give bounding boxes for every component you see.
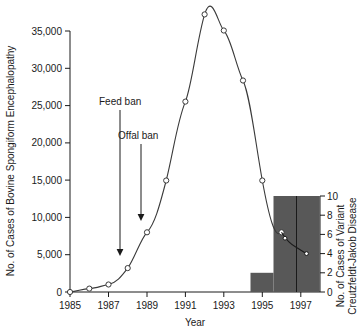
left-y-ticks — [65, 31, 70, 292]
bse-point-1987 — [106, 282, 111, 287]
bse-point-1994 — [240, 78, 245, 83]
bse-point-1996 — [279, 230, 284, 235]
x-tick-label-1997: 1997 — [290, 300, 313, 311]
left-y-tick-label-0: 0 — [56, 287, 62, 298]
left-y-tick-label-10000: 10,000 — [31, 212, 62, 223]
right-y-tick-label-4: 4 — [327, 248, 333, 259]
annotation-feed-ban-arrowhead — [117, 249, 124, 256]
vcjd-bars — [251, 196, 320, 292]
annotation-offal-ban: Offal ban — [118, 130, 158, 221]
x-tick-label-1993: 1993 — [213, 300, 236, 311]
x-tick-label-1995: 1995 — [251, 300, 274, 311]
x-tick-label-1985: 1985 — [59, 300, 82, 311]
right-y-tick-label-0: 0 — [327, 287, 333, 298]
bse-point-1995 — [260, 178, 265, 183]
x-axis-label: Year — [185, 317, 206, 328]
bse-point-1989 — [144, 230, 149, 235]
vcjd-point-1996 — [283, 236, 287, 240]
x-ticks — [70, 292, 301, 297]
left-y-tick-label-15000: 15,000 — [31, 175, 62, 186]
x-tick-labels: 1985 1987 1989 1991 1993 1995 1997 — [59, 300, 312, 311]
right-y-tick-label-10: 10 — [327, 191, 339, 202]
bse-point-1988 — [125, 266, 130, 271]
left-y-tick-labels: 0 5,000 10,000 15,000 20,000 25,000 30,0… — [31, 26, 62, 298]
left-y-tick-label-25000: 25,000 — [31, 100, 62, 111]
right-y-tick-label-8: 8 — [327, 210, 333, 221]
x-tick-label-1989: 1989 — [136, 300, 159, 311]
bse-vcjd-chart: 0 5,000 10,000 15,000 20,000 25,000 30,0… — [0, 0, 362, 333]
bse-point-1991 — [183, 99, 188, 104]
bse-point-1992 — [202, 12, 207, 17]
annotation-feed-ban: Feed ban — [99, 96, 141, 256]
bse-point-1986 — [87, 286, 92, 291]
bse-point-1985 — [67, 289, 72, 294]
left-y-axis-label: No. of Cases of Bovine Spongiform Enceph… — [5, 46, 16, 277]
right-y-ticks — [320, 196, 325, 292]
right-y-axis-label-line1: No. of Cases of Variant — [335, 204, 346, 307]
bse-curve — [70, 6, 282, 292]
vcjd-point-1997 — [305, 252, 309, 256]
left-y-tick-label-5000: 5,000 — [37, 249, 62, 260]
x-tick-label-1991: 1991 — [174, 300, 197, 311]
annotation-offal-ban-arrowhead — [138, 214, 145, 221]
bse-point-1990 — [164, 178, 169, 183]
x-tick-label-1987: 1987 — [97, 300, 120, 311]
annotation-offal-ban-label: Offal ban — [118, 130, 158, 141]
bse-data-points — [67, 12, 284, 295]
right-y-tick-label-6: 6 — [327, 229, 333, 240]
left-y-tick-label-35000: 35,000 — [31, 26, 62, 37]
right-y-axis-label-line2: Creutzfeldt-Jakob Disease — [347, 197, 358, 315]
bar-1995 — [251, 273, 274, 292]
left-y-tick-label-20000: 20,000 — [31, 137, 62, 148]
chart-figure: 0 5,000 10,000 15,000 20,000 25,000 30,0… — [0, 0, 362, 333]
bar-1997 — [297, 196, 320, 292]
annotation-feed-ban-label: Feed ban — [99, 96, 141, 107]
right-y-tick-label-2: 2 — [327, 267, 333, 278]
bar-1996 — [274, 196, 297, 292]
bse-point-1993 — [221, 28, 226, 33]
left-y-tick-label-30000: 30,000 — [31, 63, 62, 74]
